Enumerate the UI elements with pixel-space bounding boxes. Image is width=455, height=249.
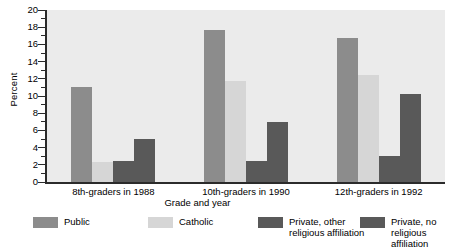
legend-item: Catholic xyxy=(148,216,213,228)
y-tick-major xyxy=(38,44,46,45)
x-axis-title: Grade and year xyxy=(0,197,425,208)
y-tick-minor xyxy=(41,87,46,88)
y-tick-major xyxy=(38,96,46,97)
y-axis-ticks: 02468101214161820 xyxy=(0,0,38,200)
y-tick-minor xyxy=(41,104,46,105)
legend-item: Private, no religious affiliation xyxy=(360,216,455,249)
y-tick-major xyxy=(38,113,46,114)
legend-item: Private, other religious affiliation xyxy=(258,216,364,238)
y-tick-major xyxy=(38,130,46,131)
y-tick-minor xyxy=(41,70,46,71)
y-tick-label: 12 xyxy=(16,74,38,84)
y-tick-major xyxy=(38,10,46,11)
legend-swatch xyxy=(258,217,283,228)
y-tick-label: 14 xyxy=(16,57,38,67)
y-tick-label: 0 xyxy=(16,177,38,187)
y-tick-minor xyxy=(41,173,46,174)
y-tick-minor xyxy=(41,35,46,36)
bar xyxy=(379,156,400,182)
bar xyxy=(400,94,421,182)
y-tick-label: 18 xyxy=(16,22,38,32)
y-tick-major xyxy=(38,61,46,62)
bar xyxy=(246,161,267,183)
y-tick-minor xyxy=(41,139,46,140)
x-category-label: 12th-graders in 1992 xyxy=(304,186,454,197)
bar xyxy=(71,87,92,182)
legend-swatch xyxy=(33,217,58,228)
y-tick-major xyxy=(38,147,46,148)
bar xyxy=(225,81,246,182)
y-tick-label: 16 xyxy=(16,39,38,49)
bar xyxy=(337,38,358,182)
y-axis-title: Percent xyxy=(8,60,19,120)
legend-swatch xyxy=(148,217,173,228)
x-axis-line xyxy=(45,182,445,184)
x-category-label: 8th-graders in 1988 xyxy=(38,186,188,197)
x-category-label: 10th-graders in 1990 xyxy=(171,186,321,197)
y-tick-label: 4 xyxy=(16,143,38,153)
legend-label: Private, other religious affiliation xyxy=(289,216,364,238)
y-tick-major xyxy=(38,182,46,183)
legend-item: Public xyxy=(33,216,90,228)
y-tick-minor xyxy=(41,121,46,122)
y-tick-major xyxy=(38,164,46,165)
y-tick-label: 6 xyxy=(16,125,38,135)
y-tick-label: 8 xyxy=(16,108,38,118)
y-tick-major xyxy=(38,27,46,28)
bar-groups xyxy=(47,10,445,182)
legend-label: Public xyxy=(64,216,90,227)
bar xyxy=(113,161,134,183)
y-tick-major xyxy=(38,78,46,79)
legend-label: Private, no religious affiliation xyxy=(391,216,455,249)
bar xyxy=(267,122,288,182)
bar xyxy=(358,75,379,183)
y-tick-label: 10 xyxy=(16,91,38,101)
y-tick-minor xyxy=(41,53,46,54)
legend-swatch xyxy=(360,217,385,228)
y-tick-label: 2 xyxy=(16,160,38,170)
y-tick-minor xyxy=(41,156,46,157)
y-tick-label: 20 xyxy=(16,5,38,15)
chart-legend: PublicCatholicPrivate, other religious a… xyxy=(0,216,455,246)
legend-label: Catholic xyxy=(179,216,213,227)
bar xyxy=(134,139,155,182)
y-tick-minor xyxy=(41,18,46,19)
bar xyxy=(204,30,225,182)
bar xyxy=(92,162,113,182)
